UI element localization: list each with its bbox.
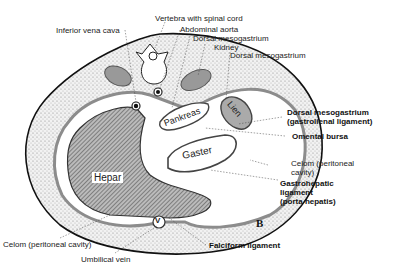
- label-gastrohepatic-3: (porta hepatis): [280, 197, 336, 206]
- label-abdominal-aorta: Abdominal aorta: [180, 25, 238, 34]
- label-dorsal-mesogastrium-1: Dorsal mesogastrium: [193, 34, 269, 43]
- label-celom-right-2: cavity): [291, 168, 314, 177]
- label-falciform: Falciform ligament: [209, 241, 280, 250]
- label-inferior-vena-cava: Inferior vena cava: [56, 26, 120, 35]
- label-umbilical-vein: Umbilical vein: [81, 255, 130, 264]
- label-gastrolienal-1: Dorsal mesogastrium: [287, 108, 369, 117]
- umbilical-vein-symbol: V: [155, 216, 160, 225]
- label-dorsal-mesogastrium-2: Dorsal mesogastrium: [230, 51, 306, 60]
- spinal-cord: [149, 52, 157, 60]
- label-gastrohepatic-2: ligament: [280, 188, 313, 197]
- label-celom-right-1: Celom (peritoneal: [291, 159, 354, 168]
- label-gastrohepatic-1: Gastrohepatic: [280, 179, 334, 188]
- label-vertebra: Vertebra with spinal cord: [155, 14, 243, 23]
- label-gastrolienal-2: (gastrolienal ligament): [287, 117, 372, 126]
- panel-letter: B: [256, 217, 263, 229]
- label-omental-bursa: Omental bursa: [292, 132, 348, 141]
- organ-hepar-label: Hepar: [92, 172, 123, 183]
- label-celom-bottom: Celom (peritoneal cavity): [3, 240, 91, 249]
